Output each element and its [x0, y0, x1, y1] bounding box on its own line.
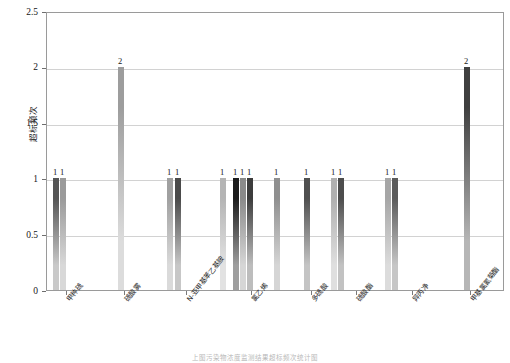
x-tick-label: 硫酸酯 — [354, 281, 374, 303]
x-tick-label: 异丙净 — [410, 281, 430, 303]
x-tick-label: 硫酸雾 — [122, 281, 142, 303]
x-tick-label: 甲种硫 — [64, 281, 84, 303]
x-tick-label: 多硫酸 — [309, 281, 329, 303]
figure-caption: 上图污染物浓度监测结果超标频次统计图 — [0, 352, 510, 362]
x-tick-label: 甲基氯氰菊酯 — [468, 265, 501, 303]
x-tick-label: N-亚甲基苯乙基胺 — [184, 254, 226, 303]
x-axis: 甲种硫硫酸雾N-亚甲基苯乙基胺氯乙烯多硫酸硫酸酯异丙净甲基氯氰菊酯 — [0, 0, 510, 363]
x-tick-label: 氯乙烯 — [249, 281, 269, 303]
chart-canvas: 2.5 2 1.5 1 0.5 0 超标频次 1121111111111112 … — [0, 0, 510, 363]
